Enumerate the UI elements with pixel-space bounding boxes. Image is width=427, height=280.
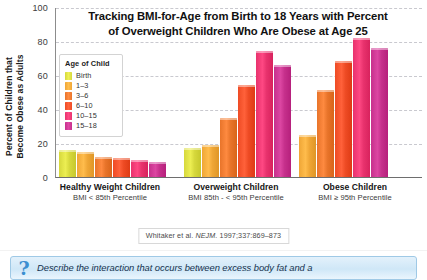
question-prompt-bar: ? Describe the interaction that occurs b… (10, 256, 417, 280)
bar[interactable] (274, 65, 291, 177)
x-axis-category-sublabel: BMI < 85th Percentile (60, 193, 160, 203)
legend-item-label: 1–3 (76, 81, 88, 90)
bar[interactable] (202, 145, 219, 177)
bar[interactable] (59, 150, 76, 177)
y-axis-tick-labels: 020406080100 (22, 0, 48, 185)
legend-item-label: 15–18 (76, 121, 97, 130)
legend-item[interactable]: 10–15 (65, 111, 118, 121)
legend-color-swatch (65, 72, 72, 80)
x-axis-category-name: Healthy Weight Children (60, 182, 160, 193)
bar[interactable] (113, 158, 130, 177)
bar[interactable] (317, 90, 334, 177)
bar[interactable] (256, 51, 273, 177)
bar-top-highlight (202, 145, 219, 147)
y-axis-title-line1: Percent of Children that (4, 42, 15, 172)
bar-top-highlight (274, 65, 291, 67)
chart-title: Tracking BMI-for-Age from Birth to 18 Ye… (62, 9, 414, 38)
bar-top-highlight (256, 51, 273, 53)
bar[interactable] (238, 85, 255, 177)
legend-item-label: 3–6 (76, 91, 88, 100)
y-tick-label: 100 (32, 4, 48, 13)
bmi-bar-chart: Percent of Children that Become Obese as… (0, 0, 427, 248)
x-axis-category: Overweight ChildrenBMI 85th - < 95th Per… (188, 182, 284, 203)
legend-item[interactable]: Birth (65, 71, 118, 81)
bar[interactable] (149, 162, 166, 177)
bar-top-highlight (131, 160, 148, 162)
legend-items: Birth1–33–66–1010–1515–18 (65, 71, 118, 131)
bar[interactable] (220, 118, 237, 178)
legend-item-label: 10–15 (76, 111, 97, 120)
y-tick-label: 20 (38, 140, 48, 149)
legend-color-swatch (65, 102, 72, 110)
legend-color-swatch (65, 92, 72, 100)
question-prompt-text: Describe the interaction that occurs bet… (37, 262, 313, 274)
legend-item[interactable]: 1–3 (65, 81, 118, 91)
legend-item[interactable]: 3–6 (65, 91, 118, 101)
bar-top-highlight (95, 157, 112, 159)
legend-item[interactable]: 15–18 (65, 121, 118, 131)
bar-top-highlight (149, 162, 166, 164)
x-axis-category: Healthy Weight ChildrenBMI < 85th Percen… (60, 182, 160, 203)
y-tick-label: 0 (43, 174, 48, 183)
y-tick-label: 60 (38, 72, 48, 81)
x-axis-category: Obese ChildrenBMI ≥ 95th Percentile (318, 182, 392, 203)
x-axis-category-sublabel: BMI 85th - < 95th Percentile (188, 193, 284, 203)
bar-top-highlight (59, 150, 76, 152)
bar-top-highlight (113, 158, 130, 160)
bar[interactable] (184, 148, 201, 177)
question-mark-icon: ? (11, 259, 37, 278)
legend-title: Age of Child (65, 59, 118, 68)
legend-item[interactable]: 6–10 (65, 101, 118, 111)
bar[interactable] (95, 157, 112, 177)
bar[interactable] (77, 152, 94, 178)
legend-item-label: Birth (76, 71, 92, 80)
chart-title-line2: of Overweight Children Who Are Obese at … (62, 24, 414, 39)
x-axis-category-sublabel: BMI ≥ 95th Percentile (318, 193, 392, 203)
citation-journal: NEJM. (195, 231, 217, 240)
legend-color-swatch (65, 122, 72, 130)
citation-reference: 1997;337:869–873 (217, 231, 281, 240)
legend-color-swatch (65, 82, 72, 90)
bar[interactable] (353, 38, 370, 177)
bar[interactable] (335, 61, 352, 177)
y-tick-label: 80 (38, 38, 48, 47)
bar[interactable] (371, 48, 388, 177)
bar-top-highlight (184, 148, 201, 150)
x-axis-category-name: Overweight Children (188, 182, 284, 193)
source-citation: Whitaker et al. NEJM. 1997;337:869–873 (138, 228, 289, 244)
bar-top-highlight (299, 135, 316, 137)
x-axis-category-name: Obese Children (318, 182, 392, 193)
bar-top-highlight (220, 118, 237, 120)
slide-root: Percent of Children that Become Obese as… (0, 0, 427, 280)
bar-top-highlight (238, 85, 255, 87)
chart-title-line1: Tracking BMI-for-Age from Birth to 18 Ye… (62, 9, 414, 24)
legend-color-swatch (65, 112, 72, 120)
bar-top-highlight (371, 48, 388, 50)
chart-legend: Age of Child Birth1–33–66–1010–1515–18 (59, 54, 123, 137)
citation-author: Whitaker et al. (146, 231, 196, 240)
bar[interactable] (299, 135, 316, 178)
legend-item-label: 6–10 (76, 101, 93, 110)
section-divider (0, 250, 427, 251)
bar-top-highlight (77, 152, 94, 154)
y-tick-label: 40 (38, 106, 48, 115)
bar-top-highlight (335, 61, 352, 63)
bar-top-highlight (317, 90, 334, 92)
bar[interactable] (131, 160, 148, 177)
